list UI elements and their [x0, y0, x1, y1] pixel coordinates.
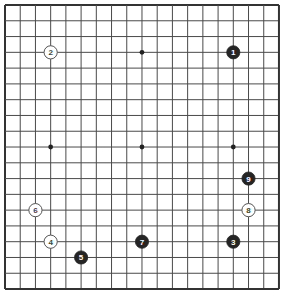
- move-number: 2: [48, 48, 53, 57]
- star-point-icon: [140, 145, 145, 150]
- move-number: 3: [231, 238, 236, 247]
- move-number: 6: [33, 206, 38, 215]
- star-point-icon: [231, 145, 236, 150]
- white-stone-6[interactable]: 6: [29, 204, 42, 217]
- white-stone-8[interactable]: 8: [242, 204, 255, 217]
- go-board[interactable]: 123456789: [0, 0, 283, 297]
- star-point-icon: [140, 50, 145, 55]
- move-number: 1: [231, 48, 236, 57]
- white-stone-4[interactable]: 4: [44, 235, 57, 248]
- move-number: 8: [246, 206, 251, 215]
- black-stone-9[interactable]: 9: [242, 172, 255, 185]
- move-number: 7: [140, 238, 145, 247]
- black-stone-3[interactable]: 3: [227, 235, 240, 248]
- move-number: 4: [48, 238, 53, 247]
- star-point-icon: [48, 145, 53, 150]
- move-number: 5: [79, 253, 84, 262]
- white-stone-2[interactable]: 2: [44, 46, 57, 59]
- black-stone-1[interactable]: 1: [227, 46, 240, 59]
- black-stone-5[interactable]: 5: [75, 251, 88, 264]
- black-stone-7[interactable]: 7: [135, 235, 148, 248]
- move-number: 9: [246, 175, 251, 184]
